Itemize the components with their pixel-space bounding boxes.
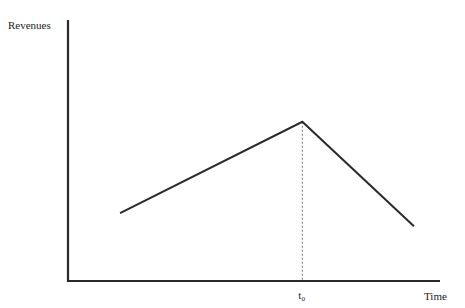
x-tick-label-t0: t0: [298, 289, 305, 303]
x-axis-label: Time: [424, 290, 447, 302]
series-group: [120, 122, 414, 226]
series-line-revenues: [120, 122, 414, 226]
x-ticks: t0: [298, 289, 305, 303]
y-axis-label: Revenues: [8, 19, 51, 31]
revenue-chart: Revenues Time t0: [0, 0, 465, 308]
